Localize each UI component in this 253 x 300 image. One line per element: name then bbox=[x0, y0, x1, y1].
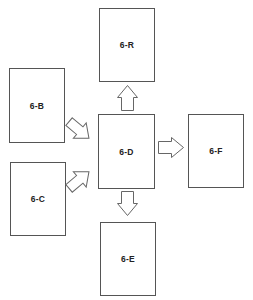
box-6-c-label: 6-C bbox=[31, 194, 45, 204]
box-6-d: 6-D bbox=[98, 114, 155, 189]
box-6-c: 6-C bbox=[10, 162, 66, 236]
box-6-r: 6-R bbox=[99, 8, 155, 82]
box-6-f: 6-F bbox=[188, 114, 244, 188]
box-6-f-label: 6-F bbox=[209, 146, 222, 156]
arrow-down-icon bbox=[118, 192, 138, 216]
box-6-d-label: 6-D bbox=[119, 147, 133, 157]
box-6-b-label: 6-B bbox=[30, 101, 44, 111]
arrow-up-icon bbox=[118, 86, 138, 111]
arrow-down-right-icon bbox=[63, 114, 96, 146]
box-6-e-label: 6-E bbox=[121, 254, 135, 264]
arrow-right-icon bbox=[159, 138, 184, 158]
box-6-r-label: 6-R bbox=[120, 40, 134, 50]
arrow-up-right-icon bbox=[63, 164, 96, 196]
box-6-e: 6-E bbox=[100, 222, 156, 296]
box-6-b: 6-B bbox=[9, 68, 65, 143]
